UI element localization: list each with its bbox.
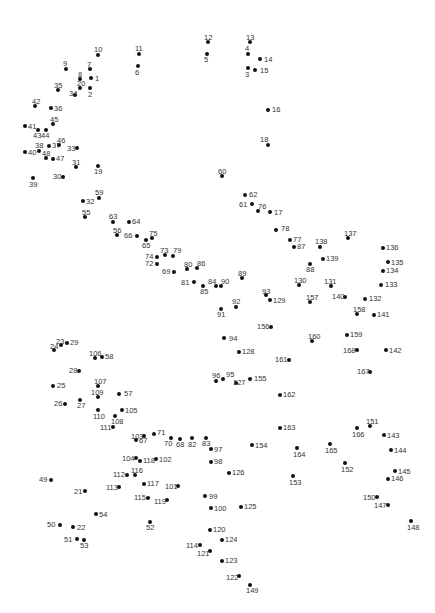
puzzle-dot — [384, 348, 388, 352]
dot-number-label: 165 — [325, 447, 338, 455]
dot-number-label: 157 — [306, 294, 319, 302]
dot-number-label: 125 — [244, 503, 257, 511]
dot-number-label: 148 — [407, 524, 420, 532]
puzzle-dot — [393, 469, 397, 473]
puzzle-dot — [278, 393, 282, 397]
dot-number-label: 154 — [255, 442, 268, 450]
dot-number-label: 93 — [262, 288, 270, 296]
dot-number-label: 161 — [275, 356, 288, 364]
dot-number-label: 5 — [204, 56, 208, 64]
dot-number-label: 85 — [200, 288, 208, 296]
dot-number-label: 94 — [229, 335, 237, 343]
puzzle-dot — [258, 57, 262, 61]
dot-number-label: 143 — [387, 432, 400, 440]
dot-number-label: 80 — [184, 261, 192, 269]
dot-number-label: 1 — [95, 75, 99, 83]
dot-number-label: 62 — [249, 191, 257, 199]
puzzle-dot — [209, 447, 213, 451]
dot-number-label: 113 — [106, 484, 118, 492]
dot-number-label: 142 — [389, 347, 402, 355]
puzzle-dot — [345, 333, 349, 337]
dot-number-label: 138 — [315, 238, 328, 246]
dot-number-label: 42 — [32, 98, 40, 106]
puzzle-dot — [222, 336, 226, 340]
dot-number-label: 14 — [264, 56, 272, 64]
dot-number-label: 17 — [274, 209, 282, 217]
dot-number-label: 24 — [50, 343, 58, 351]
dot-number-label: 124 — [225, 536, 238, 544]
dot-number-label: 162 — [283, 391, 296, 399]
dot-number-label: 46 — [57, 137, 65, 145]
dot-number-label: 102 — [159, 456, 172, 464]
dot-number-label: 51 — [64, 536, 72, 544]
puzzle-dot — [386, 260, 390, 264]
dot-number-label: 119 — [154, 498, 166, 506]
dot-number-label: 116 — [131, 467, 143, 475]
dot-number-label: 112 — [113, 471, 125, 479]
dot-number-label: 54 — [99, 511, 107, 519]
dot-number-label: 150 — [363, 494, 376, 502]
puzzle-dot — [239, 505, 243, 509]
dot-number-label: 156 — [257, 323, 270, 331]
dot-number-label: 21 — [74, 488, 82, 496]
dot-number-label: 86 — [197, 260, 205, 268]
puzzle-dot — [146, 496, 150, 500]
dot-number-label: 18 — [260, 136, 268, 144]
puzzle-dot — [51, 157, 55, 161]
puzzle-dot — [375, 495, 379, 499]
dot-number-label: 132 — [369, 295, 382, 303]
dot-number-label: 160 — [308, 333, 321, 341]
dot-number-label: 55 — [82, 209, 90, 217]
dot-number-label: 36 — [54, 105, 62, 113]
puzzle-dot — [250, 443, 254, 447]
puzzle-dot — [209, 506, 213, 510]
puzzle-dot — [243, 193, 247, 197]
puzzle-dot — [198, 543, 202, 547]
dot-number-label: 61 — [239, 201, 247, 209]
puzzle-dot — [152, 432, 156, 436]
dot-number-label: 167 — [357, 368, 370, 376]
dot-number-label: 104 — [122, 455, 135, 463]
puzzle-dot — [51, 384, 55, 388]
dot-number-label: 47 — [56, 155, 64, 163]
puzzle-dot — [250, 202, 254, 206]
dot-number-label: 155 — [254, 375, 267, 383]
puzzle-dot — [268, 298, 272, 302]
puzzle-dot — [389, 448, 393, 452]
dot-number-label: 13 — [246, 34, 254, 42]
dot-number-label: 147 — [374, 502, 387, 510]
puzzle-dot — [75, 537, 79, 541]
dot-number-label: 71 — [157, 429, 165, 437]
dot-number-label: 12 — [204, 34, 212, 42]
dot-number-label: 122 — [226, 574, 239, 582]
dot-number-label: 136 — [386, 244, 399, 252]
dot-number-label: 57 — [124, 390, 132, 398]
dot-number-label: 129 — [273, 297, 286, 305]
puzzle-dot — [63, 402, 67, 406]
dot-number-label: 76 — [258, 203, 266, 211]
dot-number-label: 63 — [109, 213, 117, 221]
puzzle-dot — [363, 297, 367, 301]
dot-number-label: 126 — [232, 469, 245, 477]
dot-number-label: 22 — [77, 524, 85, 532]
dot-number-label: 69 — [162, 268, 170, 276]
dot-number-label: 30 — [53, 173, 61, 181]
dot-number-label: 78 — [281, 225, 289, 233]
puzzle-dot — [117, 392, 121, 396]
puzzle-dot — [386, 477, 390, 481]
puzzle-dot — [155, 255, 159, 259]
dot-number-label: 115 — [134, 494, 146, 502]
dot-number-label: 149 — [246, 587, 259, 595]
puzzle-dot — [135, 234, 139, 238]
dot-number-label: 87 — [297, 243, 305, 251]
dot-number-label: 103 — [131, 433, 144, 441]
puzzle-dot — [208, 528, 212, 532]
dot-number-label: 74 — [145, 253, 153, 261]
dot-number-label: 159 — [350, 331, 363, 339]
puzzle-dot — [138, 459, 142, 463]
dot-number-label: 70 — [164, 440, 172, 448]
dot-number-label: 168 — [343, 347, 356, 355]
dot-number-label: 82 — [188, 441, 196, 449]
puzzle-dot — [278, 426, 282, 430]
puzzle-dot — [83, 489, 87, 493]
